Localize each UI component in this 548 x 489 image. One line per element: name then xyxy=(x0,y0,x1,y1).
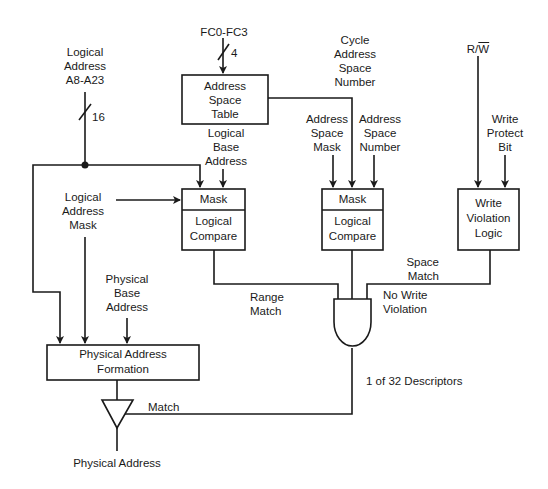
no-write-violation-label: No Write Violation xyxy=(383,288,428,316)
left-mask-label: Mask xyxy=(182,192,245,207)
space-match-label: Space Match xyxy=(395,255,439,283)
mid-compare-label: Logical Compare xyxy=(322,214,383,244)
physical-address-label: Physical Address xyxy=(62,456,172,470)
fc-label: FC0-FC3 xyxy=(195,25,253,39)
physical-base-address-label: Physical Base Address xyxy=(102,272,152,314)
match-label: Match xyxy=(148,400,179,414)
logical-address-mask-label: Logical Address Mask xyxy=(58,190,108,232)
paf-label: Physical Address Formation xyxy=(47,347,199,377)
range-match-label: Range Match xyxy=(250,290,284,318)
bus-width-4: 4 xyxy=(231,46,237,60)
address-space-mask-label: Address Space Mask xyxy=(302,112,352,154)
junction-dot xyxy=(82,162,89,169)
bus-width-16: 16 xyxy=(92,110,105,124)
cycle-asn-label: Cycle Address Space Number xyxy=(330,33,380,89)
and-gate xyxy=(334,299,371,346)
bus-to-left-mask xyxy=(85,165,200,187)
write-violation-label: Write Violation Logic xyxy=(458,196,519,241)
descriptors-label: 1 of 32 Descriptors xyxy=(366,374,463,388)
rw-label: R/W xyxy=(463,42,493,56)
address-space-table-label: Address Space Table xyxy=(182,79,268,121)
logical-base-address-label: Logical Base Address xyxy=(203,126,249,168)
logical-address-label: Logical Address A8-A23 xyxy=(60,45,110,87)
left-compare-label: Logical Compare xyxy=(182,214,245,244)
mid-mask-label: Mask xyxy=(322,192,383,207)
address-space-number-label: Address Space Number xyxy=(355,112,405,154)
write-protect-bit-label: Write Protect Bit xyxy=(480,112,530,154)
